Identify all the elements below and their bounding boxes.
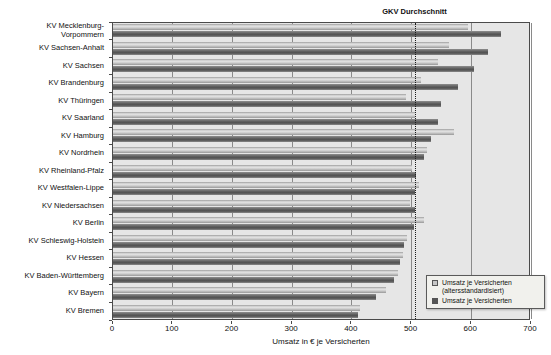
y-axis-label: KV Mecklenburg- Vorpommern xyxy=(0,22,104,39)
y-axis-label: KV Saarland xyxy=(0,114,104,123)
bar-altersstandardisiert xyxy=(113,270,398,276)
bar-umsatz xyxy=(113,84,458,90)
bar-altersstandardisiert xyxy=(113,235,407,241)
y-axis-tick xyxy=(109,57,112,58)
legend-item-umsatz: Umsatz je Versicherten xyxy=(432,297,540,305)
y-axis-tick xyxy=(109,92,112,93)
y-axis-label: KV Bremen xyxy=(0,307,104,316)
y-axis-label: KV Sachsen-Anhalt xyxy=(0,44,104,53)
bar-altersstandardisiert xyxy=(113,59,438,65)
y-axis-label: KV Hamburg xyxy=(0,132,104,141)
bar-umsatz xyxy=(113,154,424,160)
legend-item-altersstandardisiert: Umsatz je Versicherten (altersstandardis… xyxy=(432,279,540,295)
y-axis-tick xyxy=(109,267,112,268)
bar-umsatz xyxy=(113,119,438,125)
bar-altersstandardisiert xyxy=(113,287,386,293)
y-axis-label: KV Brandenburg xyxy=(0,79,104,88)
y-axis-tick xyxy=(109,109,112,110)
legend: Umsatz je Versicherten (altersstandardis… xyxy=(426,275,545,309)
legend-swatch-dark-icon xyxy=(432,298,438,304)
bar-altersstandardisiert xyxy=(113,112,415,118)
bar-altersstandardisiert xyxy=(113,252,403,258)
y-axis-tick xyxy=(109,232,112,233)
bar-umsatz xyxy=(113,49,488,55)
bar-umsatz xyxy=(113,207,415,213)
x-axis-tick-label: 300 xyxy=(284,324,297,333)
bar-umsatz xyxy=(113,242,404,248)
bar-altersstandardisiert xyxy=(113,165,412,171)
x-axis-tick-label: 200 xyxy=(225,324,238,333)
x-axis-tick-label: 600 xyxy=(464,324,477,333)
y-axis-tick xyxy=(109,162,112,163)
bar-altersstandardisiert xyxy=(113,182,419,188)
bar-altersstandardisiert xyxy=(113,200,410,206)
y-axis-tick xyxy=(109,302,112,303)
x-axis-title: Umsatz in € je Versicherten xyxy=(112,337,530,346)
y-axis-label: KV Baden-Württemberg xyxy=(0,272,104,281)
bar-altersstandardisiert xyxy=(113,94,406,100)
bar-umsatz xyxy=(113,136,431,142)
y-axis-label: KV Berlin xyxy=(0,219,104,228)
reference-line-label: GKV Durchschnitt xyxy=(382,7,447,16)
y-axis-label: KV Thüringen xyxy=(0,97,104,106)
y-axis-tick xyxy=(109,197,112,198)
y-axis-tick xyxy=(109,284,112,285)
bar-umsatz xyxy=(113,31,501,37)
legend-label: Umsatz je Versicherten xyxy=(442,297,512,305)
y-axis-tick xyxy=(109,144,112,145)
bar-umsatz xyxy=(113,172,416,178)
gkv-reference-line xyxy=(415,23,416,319)
x-axis-tick-label: 0 xyxy=(110,324,114,333)
y-axis-label: KV Rheinland-Pfalz xyxy=(0,167,104,176)
legend-label: Umsatz je Versicherten (altersstandardis… xyxy=(442,279,512,295)
y-axis-tick xyxy=(109,249,112,250)
bar-chart: GKV Durchschnitt KV Mecklenburg- Vorpomm… xyxy=(0,0,551,355)
bar-umsatz xyxy=(113,189,415,195)
bar-altersstandardisiert xyxy=(113,305,360,311)
x-axis-tick-label: 400 xyxy=(344,324,357,333)
y-axis-label: KV Nordrhein xyxy=(0,149,104,158)
bar-altersstandardisiert xyxy=(113,77,421,83)
bar-umsatz xyxy=(113,224,414,230)
legend-swatch-light-icon xyxy=(432,280,438,286)
bar-altersstandardisiert xyxy=(113,217,424,223)
y-axis-label: KV Sachsen xyxy=(0,62,104,71)
bar-umsatz xyxy=(113,277,394,283)
y-axis-tick xyxy=(109,74,112,75)
y-axis-tick xyxy=(109,127,112,128)
y-axis-tick xyxy=(109,214,112,215)
legend-label-line1: Umsatz je Versicherten xyxy=(442,279,512,286)
x-axis-tick-label: 100 xyxy=(165,324,178,333)
bar-altersstandardisiert xyxy=(113,129,454,135)
y-axis-label: KV Bayern xyxy=(0,289,104,298)
y-axis-tick xyxy=(109,320,112,321)
bar-umsatz xyxy=(113,312,358,318)
y-axis-tick xyxy=(109,39,112,40)
bar-umsatz xyxy=(113,294,376,300)
y-axis-label: KV Hessen xyxy=(0,254,104,263)
legend-label-line2: (altersstandardisiert) xyxy=(442,287,504,294)
bar-umsatz xyxy=(113,66,474,72)
y-axis-labels: KV Mecklenburg- VorpommernKV Sachsen-Anh… xyxy=(0,22,107,320)
x-axis-tick-label: 500 xyxy=(404,324,417,333)
bar-umsatz xyxy=(113,101,441,107)
x-axis-tick-label: 700 xyxy=(523,324,536,333)
bar-altersstandardisiert xyxy=(113,147,427,153)
y-axis-label: KV Westfalen-Lippe xyxy=(0,184,104,193)
bar-umsatz xyxy=(113,259,400,265)
y-axis-label: KV Niedersachsen xyxy=(0,202,104,211)
y-axis-tick xyxy=(109,179,112,180)
legend-label-line1: Umsatz je Versicherten xyxy=(442,297,512,304)
bar-altersstandardisiert xyxy=(113,42,449,48)
y-axis-label: KV Schleswig-Holstein xyxy=(0,237,104,246)
y-axis-tick xyxy=(109,22,112,23)
